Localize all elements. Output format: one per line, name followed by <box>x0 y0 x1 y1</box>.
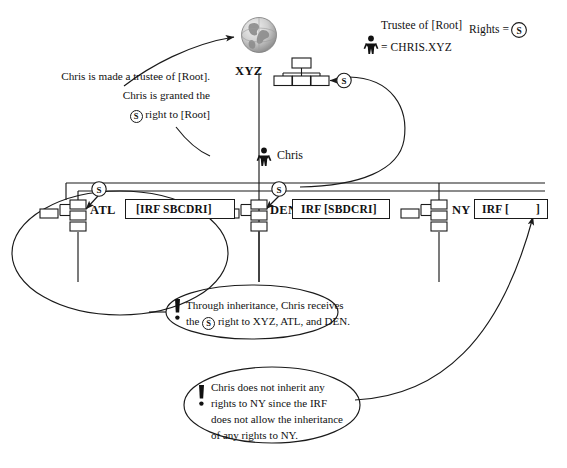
irf-box-atl[interactable]: [IRF SBCDRI] <box>125 199 235 219</box>
irf-box-atl-text: [IRF SBCDRI] <box>136 203 212 215</box>
den-rights-badge: S <box>272 182 286 196</box>
atl-rights-badge: S <box>92 182 106 196</box>
callout-one-alert-icon <box>175 299 180 320</box>
callout-two-line2: rights to NY since the IRF <box>211 396 327 412</box>
left-note-line2: Chris is granted the <box>20 87 210 104</box>
callout-two-line1: Chris does not inherit any <box>211 380 325 396</box>
ny-container-icon <box>401 200 447 231</box>
node-label-atl: ATL <box>90 203 116 218</box>
legend-person-equals: = CHRIS.XYZ <box>381 41 452 53</box>
legend-rights-symbol-circle: S <box>512 23 527 38</box>
callout-one-line1: Through inheritance, Chris receives <box>186 298 344 314</box>
irf-box-ny-prefix: IRF [ <box>482 203 509 215</box>
node-label-chris: Chris <box>277 148 303 162</box>
root-rights-loop <box>300 77 405 187</box>
left-note-line1: Chris is made a trustee of [Root]. <box>20 68 210 85</box>
left-note-rights-symbol: S <box>130 110 143 123</box>
callout-two-line3: does not allow the inheritance <box>211 412 343 428</box>
legend-rights-label: Rights = <box>469 23 509 35</box>
callout-two-alert-icon <box>199 385 204 406</box>
svg-text:S: S <box>516 26 521 36</box>
diagram-canvas: S S S <box>0 0 567 468</box>
globe-icon <box>242 18 277 53</box>
note-tail-curve <box>176 127 210 156</box>
callout-one-rights-symbol: S <box>202 317 215 330</box>
callout-two-line4: of any rights to NY. <box>211 428 298 444</box>
org-chart-icon <box>274 58 329 86</box>
svg-text:S: S <box>96 185 101 195</box>
irf-box-den-text: IRF [SBDCRI] <box>301 203 377 215</box>
left-note-line3: S right to [Root] <box>20 106 210 123</box>
irf-box-den[interactable]: IRF [SBDCRI] <box>292 199 390 219</box>
legend-person-icon <box>364 36 379 54</box>
irf-box-ny[interactable]: IRF [ ] <box>474 199 548 219</box>
left-note-line3-text: right to [Root] <box>145 108 210 120</box>
irf-box-ny-suffix: ] <box>536 203 540 215</box>
node-label-xyz: XYZ <box>235 64 263 79</box>
node-label-ny: NY <box>452 203 471 218</box>
legend-trustee-line: Trustee of [Root] <box>381 19 462 31</box>
callout-one-line2: the S right to XYZ, ATL, and DEN. <box>186 314 350 330</box>
callout-two-to-ny-arrow <box>355 217 533 400</box>
atl-container-icon <box>40 200 86 231</box>
callout-one-line2-post: right to XYZ, ATL, and DEN. <box>218 315 350 327</box>
callout-one-line2-pre: the <box>186 315 199 327</box>
svg-text:S: S <box>276 185 281 195</box>
root-rights-badge: S <box>337 73 351 87</box>
svg-text:S: S <box>341 76 346 86</box>
